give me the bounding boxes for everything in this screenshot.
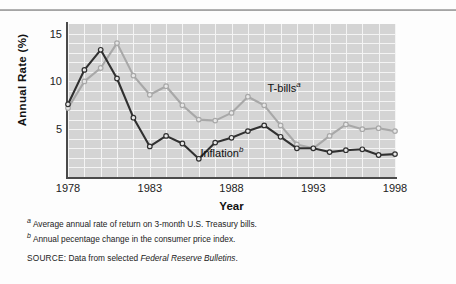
source-line: SOURCE: Data from selected Federal Reser… (27, 253, 437, 263)
data-point-marker (262, 123, 267, 128)
series-line-tbills (68, 43, 395, 148)
data-point-marker (197, 117, 202, 122)
data-point-marker (131, 73, 136, 78)
x-tick-label: 1998 (383, 182, 407, 194)
data-point-marker (393, 152, 398, 157)
series-label-inflation: Inflationb (200, 145, 243, 159)
data-point-marker (148, 93, 153, 98)
data-point-marker (148, 144, 153, 149)
footnote-a-text: Average annual rate of return on 3-month… (33, 219, 257, 229)
data-point-marker (164, 84, 169, 89)
data-point-marker (393, 129, 398, 134)
data-point-marker (278, 135, 283, 140)
series-label-tbills-sup: a (296, 80, 300, 89)
footnote-b-marker: b (27, 232, 31, 239)
series-line-inflation (68, 50, 395, 159)
x-tick-label: 1993 (301, 182, 325, 194)
source-prefix: Data from selected (66, 253, 140, 263)
footnote-b-text: Annual pecentage change in the consumer … (33, 234, 236, 244)
footnote-b: bAnnual pecentage change in the consumer… (27, 230, 437, 245)
y-tick-label: 5 (36, 123, 62, 135)
data-point-marker (229, 136, 234, 141)
series-label-tbills: T-billsa (268, 80, 301, 94)
y-tick-label: 10 (36, 75, 62, 87)
series-label-inflation-sup: b (239, 145, 243, 154)
data-point-marker (311, 146, 316, 151)
source-suffix: . (235, 253, 237, 263)
data-point-marker (327, 150, 332, 155)
x-axis-title: Year (68, 200, 395, 212)
data-point-marker (180, 141, 185, 146)
data-point-marker (229, 111, 234, 116)
data-point-marker (246, 129, 251, 134)
data-point-marker (213, 118, 218, 123)
series-label-inflation-text: Inflation (200, 147, 239, 159)
x-tick-label: 1983 (138, 182, 162, 194)
source-publication: Federal Reserve Bulletins (140, 253, 235, 263)
footnote-a: aAverage annual rate of return on 3-mont… (27, 215, 437, 230)
y-tick-label: 15 (36, 28, 62, 40)
data-point-marker (82, 68, 87, 73)
data-point-marker (115, 76, 120, 81)
data-point-marker (360, 147, 365, 152)
data-point-marker (376, 126, 381, 131)
footnote-a-marker: a (27, 217, 31, 224)
top-divider-rule (0, 9, 456, 11)
data-point-marker (164, 134, 169, 139)
data-point-marker (262, 103, 267, 108)
figure-container: Annual Rate (%) 51015 197819831988199319… (0, 0, 456, 284)
x-axis-line (66, 177, 397, 179)
data-point-marker (344, 148, 349, 153)
data-point-marker (98, 48, 103, 53)
source-label: SOURCE: (27, 253, 66, 263)
footnotes: aAverage annual rate of return on 3-mont… (27, 215, 437, 263)
data-point-marker (115, 41, 120, 46)
x-tick-label: 1978 (56, 182, 80, 194)
data-point-marker (295, 146, 300, 151)
data-point-marker (66, 102, 71, 107)
data-point-marker (360, 127, 365, 132)
chart-area: Annual Rate (%) 51015 197819831988199319… (0, 14, 456, 204)
data-point-marker (246, 94, 251, 99)
y-tick-label-group: 51015 (32, 24, 62, 177)
data-point-marker (82, 79, 87, 84)
data-point-marker (278, 123, 283, 128)
x-tick-label: 1988 (219, 182, 243, 194)
data-point-marker (98, 66, 103, 71)
data-point-marker (344, 122, 349, 127)
y-axis-title: Annual Rate (%) (16, 10, 28, 150)
data-point-marker (180, 103, 185, 108)
data-point-marker (376, 153, 381, 158)
data-point-marker (131, 115, 136, 120)
data-point-marker (327, 134, 332, 139)
series-label-tbills-text: T-bills (268, 82, 297, 94)
